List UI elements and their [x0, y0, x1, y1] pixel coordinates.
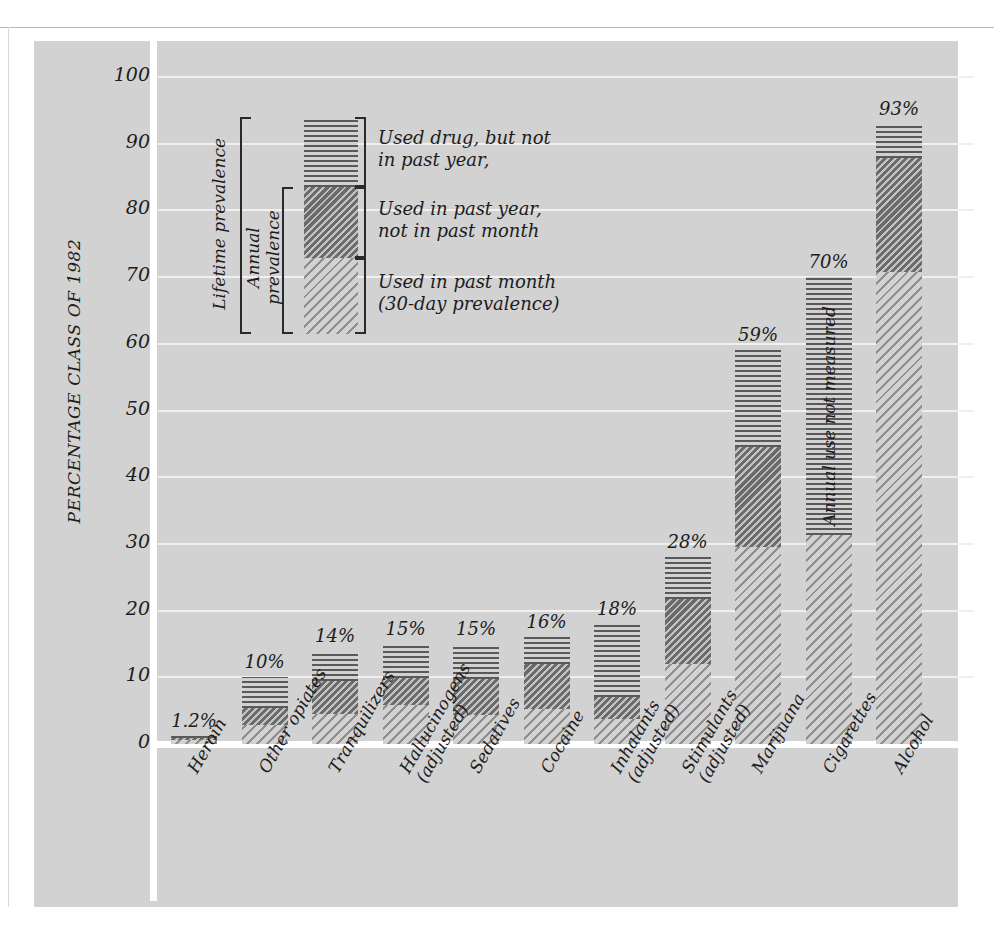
- legend-bracket: [364, 258, 366, 333]
- legend-entry-month: Used in past month(30-day prevalence): [378, 271, 560, 315]
- bracket-nub: [240, 117, 251, 119]
- legend-text-line: in past year,: [378, 149, 551, 171]
- annual-prevalence-bracket-label: Annualprevalence: [243, 185, 282, 332]
- bracket-nub: [240, 332, 251, 334]
- bracket-label-line: Annual: [243, 185, 263, 332]
- lifetime-prevalence-bracket-label: Lifetime prevalence: [209, 116, 229, 333]
- page-left-rule: [8, 27, 9, 907]
- legend-bracket: [364, 117, 366, 187]
- legend-entry-year: Used in past year,not in past month: [378, 198, 542, 242]
- bracket-nub: [282, 187, 293, 189]
- figure-page: 0102030405060708090100 PERCENTAGE CLASS …: [0, 0, 994, 952]
- legend-bracket-nub: [355, 187, 366, 189]
- legend-bracket: [364, 187, 366, 258]
- bracket-nub: [282, 332, 293, 334]
- legend-swatch-lifetime: [304, 117, 358, 187]
- legend-text-line: Used in past year,: [378, 198, 542, 220]
- chart-plot-area: 0102030405060708090100 PERCENTAGE CLASS …: [34, 41, 958, 907]
- legend-text-line: Used drug, but not: [378, 127, 551, 149]
- legend-swatch-month: [304, 258, 358, 333]
- legend-swatch-year: [304, 187, 358, 258]
- chart-legend: Used drug, but notin past year,Used in p…: [34, 41, 958, 907]
- legend-text-line: Used in past month: [378, 271, 560, 293]
- legend-entry-lifetime: Used drug, but notin past year,: [378, 127, 551, 171]
- legend-bracket-nub: [355, 117, 366, 119]
- legend-bracket-nub: [355, 332, 366, 334]
- legend-text-line: (30-day prevalence): [378, 293, 560, 315]
- legend-bracket-nub: [355, 258, 366, 260]
- lifetime-prevalence-bracket: [240, 117, 242, 334]
- legend-text-line: not in past month: [378, 220, 542, 242]
- page-top-rule: [0, 27, 994, 28]
- bracket-label-line: prevalence: [263, 185, 283, 332]
